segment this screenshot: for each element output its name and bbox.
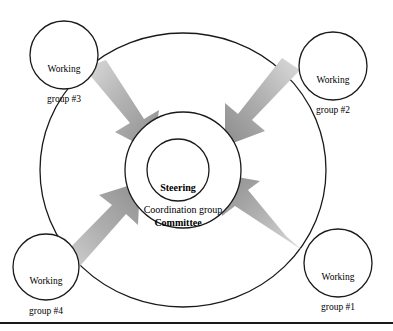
working-group-2-circle[interactable] [299, 32, 367, 100]
organization-structure-diagram [0, 0, 393, 331]
bottom-divider-rule [0, 322, 393, 324]
steering-committee-circle [147, 139, 209, 201]
working-group-3-circle[interactable] [30, 21, 98, 89]
working-group-1-circle[interactable] [304, 229, 372, 297]
working-group-4-circle[interactable] [13, 234, 79, 300]
diagram-canvas: Working group #3 Working group #2 Workin… [0, 0, 393, 331]
